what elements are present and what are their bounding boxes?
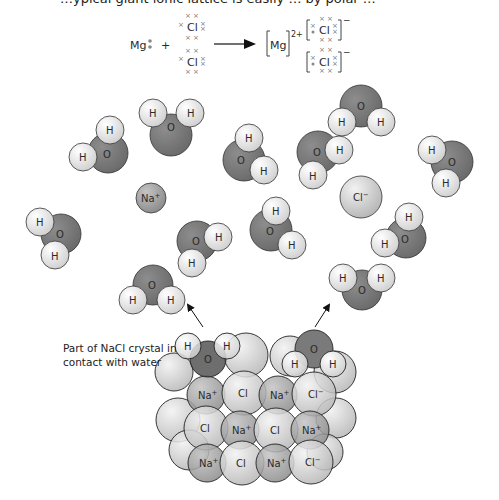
svg-text:H: H <box>79 152 87 163</box>
svg-text:H: H <box>149 108 157 119</box>
water-molecule: O H H <box>223 124 278 184</box>
equation: Mg + × × × Cl × × × × × × × Cl × × × × M… <box>130 12 351 76</box>
svg-text:×: × <box>200 25 206 33</box>
svg-text:H: H <box>339 273 347 284</box>
svg-text:−: − <box>343 15 351 25</box>
svg-text:× ×: × × <box>319 46 333 54</box>
svg-text:H: H <box>184 341 192 352</box>
svg-text:H: H <box>428 145 436 156</box>
arrow-right-icon <box>315 305 329 327</box>
product-mg: Mg <box>270 39 286 52</box>
water-molecule: O H H <box>297 131 353 189</box>
svg-text:O: O <box>192 236 200 247</box>
svg-text:O: O <box>310 344 318 355</box>
svg-text:O: O <box>448 157 456 168</box>
svg-text:× ×: × × <box>185 47 199 55</box>
caption-line-1: Part of NaCl crystal in <box>63 341 177 355</box>
svg-text:Cl: Cl <box>238 388 248 399</box>
svg-text:H: H <box>288 240 296 251</box>
svg-text:H: H <box>36 217 44 228</box>
water-molecule: O H H <box>119 265 185 314</box>
svg-text:H: H <box>188 258 196 269</box>
cropped-heading-text: …ypical giant ionic lattice is easily … … <box>60 0 376 6</box>
svg-text:×: × <box>310 22 316 30</box>
reactant-mg: Mg <box>130 39 146 52</box>
svg-text:H: H <box>215 232 223 243</box>
svg-text:×: × <box>310 54 316 62</box>
chloride-ion: Cl− <box>340 176 382 218</box>
svg-text:O: O <box>266 226 274 237</box>
sodium-ion: Na+ <box>136 183 166 213</box>
svg-text:H: H <box>223 341 231 352</box>
svg-text:−: − <box>343 47 351 57</box>
svg-text:H: H <box>129 295 137 306</box>
mg-charge: 2+ <box>291 30 303 39</box>
svg-text:H: H <box>329 359 337 370</box>
svg-text:×: × <box>178 55 184 63</box>
svg-text:H: H <box>245 133 253 144</box>
svg-text:× ×: × × <box>185 68 199 76</box>
svg-text:O: O <box>358 285 366 296</box>
svg-text:H: H <box>377 273 385 284</box>
svg-text:H: H <box>291 359 299 370</box>
svg-text:H: H <box>405 212 413 223</box>
svg-text:H: H <box>442 178 450 189</box>
svg-text:H: H <box>381 239 389 250</box>
svg-text:H: H <box>51 251 59 262</box>
electron-dot <box>148 45 152 49</box>
svg-text:× ×: × × <box>319 15 333 23</box>
water-molecule: O H H <box>371 203 426 258</box>
crystal-caption: Part of NaCl crystal in contact with wat… <box>63 341 177 369</box>
svg-text:H: H <box>309 171 317 182</box>
svg-text:× ×: × × <box>185 12 199 20</box>
nacl-dissolving-diagram: Mg + × × × Cl × × × × × × × Cl × × × × M… <box>0 0 499 500</box>
svg-text:O: O <box>103 149 111 160</box>
svg-text:H: H <box>338 117 346 128</box>
svg-text:H: H <box>167 295 175 306</box>
svg-text:Cl: Cl <box>270 425 280 436</box>
water-molecule: O H H <box>329 264 395 310</box>
electron-dot <box>148 39 152 43</box>
svg-text:O: O <box>237 155 245 166</box>
svg-text:H: H <box>336 145 344 156</box>
svg-text:O: O <box>313 147 321 158</box>
water-molecule: O H H <box>26 208 81 269</box>
svg-text:×: × <box>200 60 206 68</box>
svg-text:O: O <box>357 101 365 112</box>
reactant-cl-1: Cl <box>187 21 198 34</box>
svg-text:H: H <box>377 117 385 128</box>
svg-text:×: × <box>178 21 184 29</box>
svg-text:×: × <box>332 28 338 36</box>
arrow-left-icon <box>188 305 203 327</box>
water-molecule: O H H <box>69 116 128 173</box>
svg-text:× ×: × × <box>319 36 333 44</box>
svg-text:O: O <box>204 354 212 365</box>
svg-text:O: O <box>56 229 64 240</box>
water-molecule: O H H <box>328 85 395 136</box>
svg-text:Cl: Cl <box>236 458 246 469</box>
water-molecule: O H H <box>250 197 306 259</box>
svg-text:H: H <box>272 206 280 217</box>
svg-text:O: O <box>401 234 409 245</box>
caption-line-2: contact with water <box>63 355 177 369</box>
water-molecule: O H H <box>418 136 473 197</box>
arrow-head-icon <box>244 39 256 49</box>
water-molecule: O H H <box>177 221 232 277</box>
svg-text:O: O <box>167 122 175 133</box>
svg-text:× ×: × × <box>185 34 199 42</box>
plus-sign: + <box>161 39 170 52</box>
svg-text:H: H <box>187 108 195 119</box>
svg-text:Cl: Cl <box>200 423 210 434</box>
svg-text:O: O <box>148 280 156 291</box>
svg-text:H: H <box>260 166 268 177</box>
svg-text:× ×: × × <box>319 67 333 75</box>
water-molecule: O H H <box>139 99 204 156</box>
svg-text:H: H <box>106 125 114 136</box>
